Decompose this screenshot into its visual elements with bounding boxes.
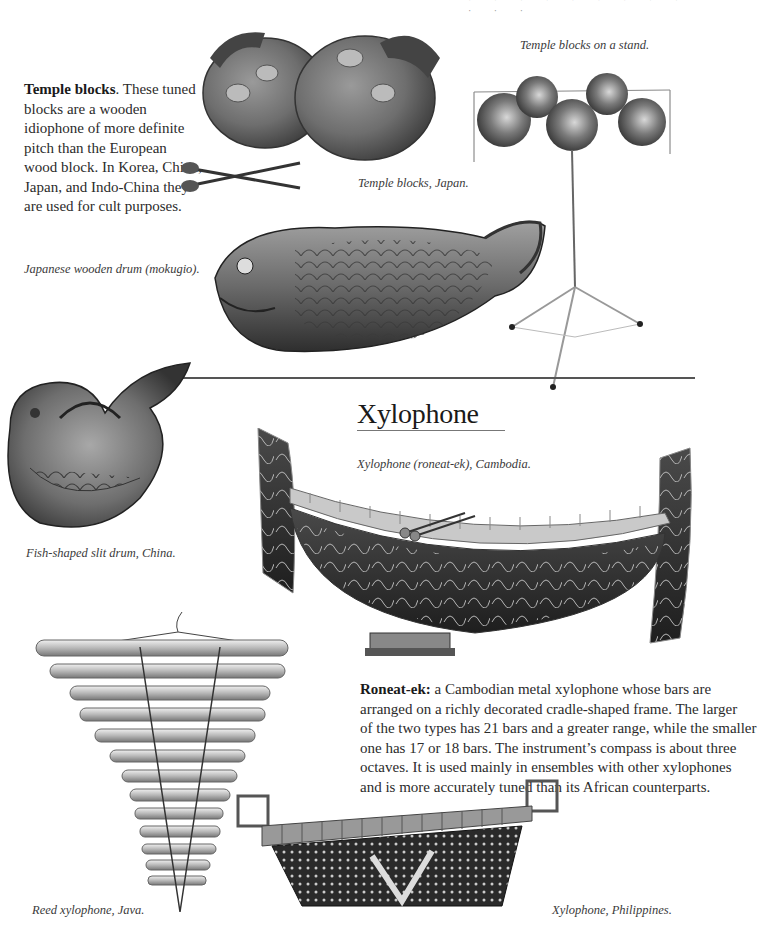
- caption-temple-blocks-stand: Temple blocks on a stand.: [520, 38, 649, 53]
- temple-blocks-japan-image: [180, 18, 450, 198]
- running-header-fragment: · · · · · · · · · · · ·: [468, 0, 710, 16]
- caption-fish-slit-drum: Fish-shaped slit drum, China.: [26, 546, 176, 561]
- section-heading-xylophone: Xylophone: [357, 398, 479, 430]
- fish-slit-drum-image: [0, 358, 195, 538]
- philippines-xylophone-image: [232, 776, 562, 911]
- caption-reed-xylophone: Reed xylophone, Java.: [32, 903, 144, 918]
- roneat-ek-term: Roneat-ek:: [360, 681, 431, 697]
- caption-philippines-xylophone: Xylophone, Philippines.: [552, 903, 672, 918]
- roneat-ek-image: [250, 428, 700, 668]
- mokugio-image: [205, 208, 550, 358]
- section-divider: [165, 377, 695, 379]
- temple-blocks-paragraph: Temple blocks. These tuned blocks are a …: [24, 80, 204, 217]
- caption-mokugio: Japanese wooden drum (mokugio).: [24, 262, 200, 277]
- caption-temple-blocks-japan: Temple blocks, Japan.: [358, 176, 469, 191]
- temple-blocks-term: Temple blocks: [24, 81, 116, 97]
